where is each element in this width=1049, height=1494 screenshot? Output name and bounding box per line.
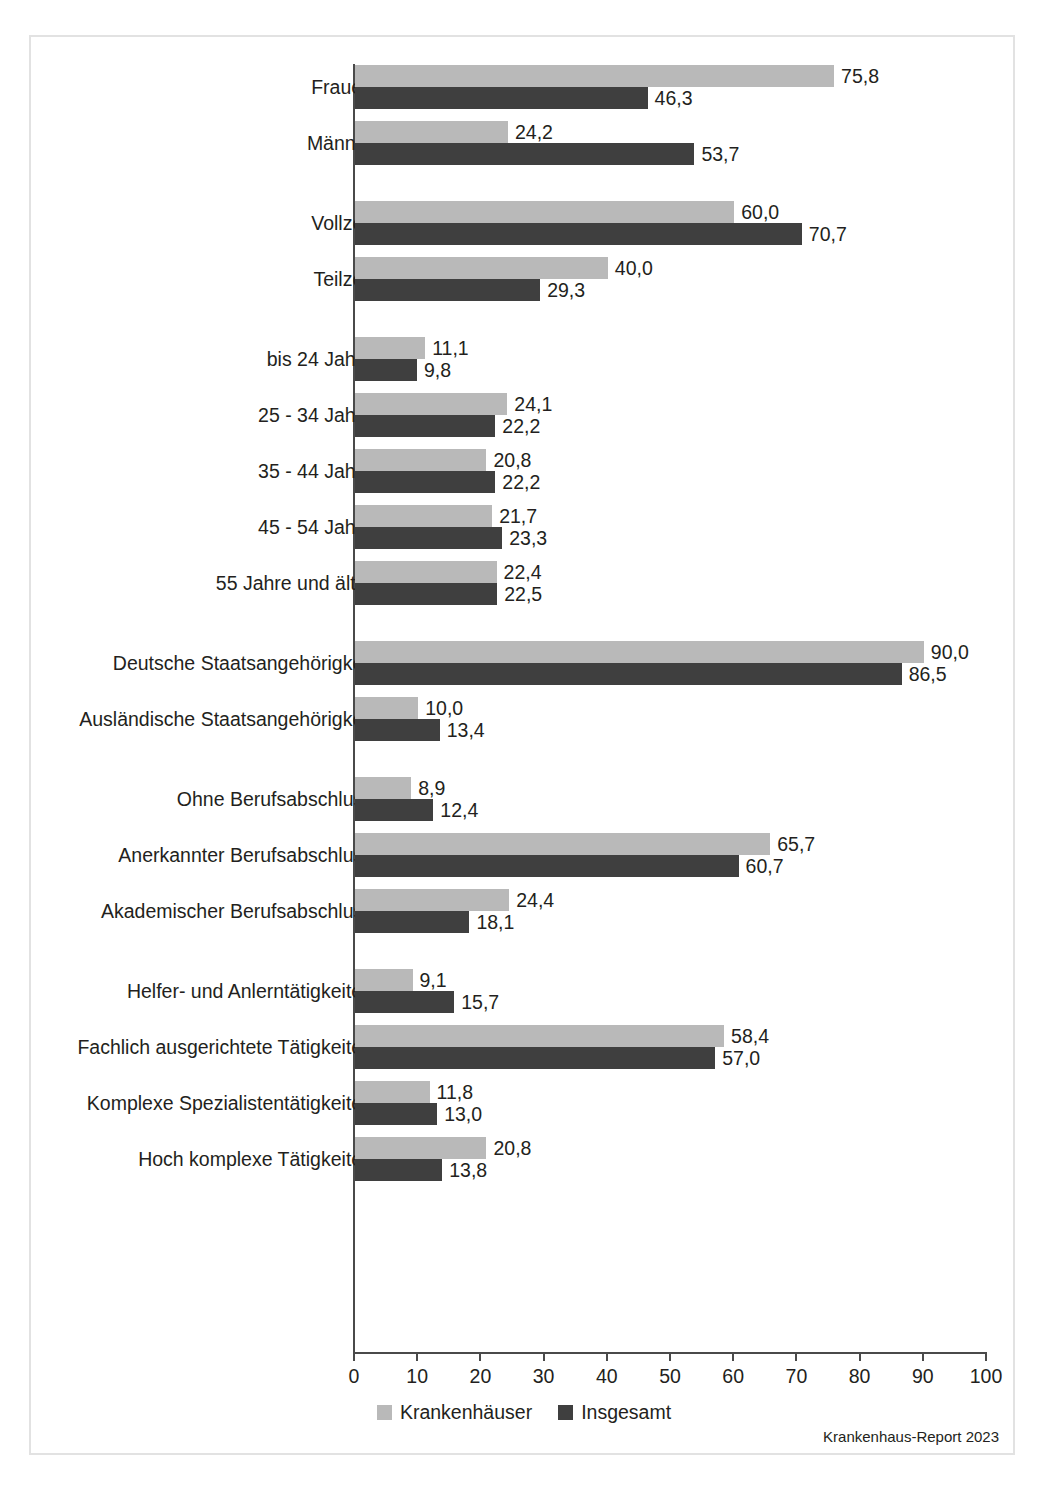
bar-dark[interactable] (355, 471, 495, 493)
category-label: Deutsche Staatsangehörigkeit (113, 641, 373, 685)
x-axis-tick-label: 40 (596, 1365, 618, 1388)
legend-swatch-icon (377, 1405, 392, 1420)
bar-value-label: 29,3 (540, 279, 585, 301)
bar-dark[interactable] (355, 855, 739, 877)
bar-light[interactable] (355, 121, 508, 143)
bar-value-label: 40,0 (608, 257, 653, 279)
bar-value-label: 22,2 (495, 471, 540, 493)
bar-light[interactable] (355, 505, 492, 527)
bar-light[interactable] (355, 393, 507, 415)
bar-light[interactable] (355, 1137, 486, 1159)
bar-value-label: 60,0 (734, 201, 779, 223)
bar-pair: 9,115,7 (355, 969, 1017, 1013)
bar-light[interactable] (355, 257, 608, 279)
bar-value-label: 8,9 (411, 777, 445, 799)
bar-value-label: 9,8 (417, 359, 451, 381)
bar-light[interactable] (355, 833, 770, 855)
bar-value-label: 86,5 (902, 663, 947, 685)
bar-row[interactable]: Hoch komplexe Tätigkeiten20,813,8 (31, 1137, 1017, 1181)
bar-dark[interactable] (355, 1159, 442, 1181)
legend-item[interactable]: Insgesamt (558, 1400, 671, 1424)
bar-pair: 24,122,2 (355, 393, 1017, 437)
x-axis-tick-label: 80 (849, 1365, 871, 1388)
bar-light[interactable] (355, 1081, 430, 1103)
bar-row[interactable]: 25 - 34 Jahre24,122,2 (31, 393, 1017, 437)
bar-light[interactable] (355, 777, 411, 799)
figure-frame: Frauen75,846,3Männer24,253,7Vollzeit60,0… (29, 35, 1015, 1455)
bar-dark[interactable] (355, 87, 648, 109)
x-axis-tick (416, 1352, 418, 1361)
bar-pair: 58,457,0 (355, 1025, 1017, 1069)
bar-row[interactable]: Anerkannter Berufsabschluss65,760,7 (31, 833, 1017, 877)
bar-value-label: 90,0 (924, 641, 969, 663)
bar-light[interactable] (355, 561, 497, 583)
legend-swatch-icon (558, 1405, 573, 1420)
bar-row[interactable]: Teilzeit40,029,3 (31, 257, 1017, 301)
bar-row[interactable]: Deutsche Staatsangehörigkeit90,086,5 (31, 641, 1017, 685)
bar-light[interactable] (355, 65, 834, 87)
bar-value-label: 70,7 (802, 223, 847, 245)
bar-light[interactable] (355, 697, 418, 719)
x-axis-tick (353, 1352, 355, 1361)
bar-value-label: 24,4 (509, 889, 554, 911)
chart-legend: KrankenhäuserInsgesamt (31, 1399, 1017, 1424)
bar-dark[interactable] (355, 991, 454, 1013)
bar-row[interactable]: 35 - 44 Jahre20,822,2 (31, 449, 1017, 493)
bar-dark[interactable] (355, 527, 502, 549)
category-label: Akademischer Berufsabschluss (101, 889, 373, 933)
bar-value-label: 13,4 (440, 719, 485, 741)
bar-light[interactable] (355, 969, 413, 991)
x-axis-tick-label: 20 (470, 1365, 492, 1388)
bar-row[interactable]: Frauen75,846,3 (31, 65, 1017, 109)
bar-row[interactable]: Helfer- und Anlerntätigkeiten9,115,7 (31, 969, 1017, 1013)
bar-pair: 20,822,2 (355, 449, 1017, 493)
bar-row[interactable]: Akademischer Berufsabschluss24,418,1 (31, 889, 1017, 933)
bar-row[interactable]: Männer24,253,7 (31, 121, 1017, 165)
bar-value-label: 13,0 (437, 1103, 482, 1125)
bar-dark[interactable] (355, 1103, 437, 1125)
chart-plot-area: Frauen75,846,3Männer24,253,7Vollzeit60,0… (31, 37, 1017, 1457)
bar-dark[interactable] (355, 143, 694, 165)
bar-light[interactable] (355, 449, 486, 471)
bar-row[interactable]: Fachlich ausgerichtete Tätigkeiten58,457… (31, 1025, 1017, 1069)
bar-dark[interactable] (355, 663, 902, 685)
category-label: Komplexe Spezialistentätigkeiten (87, 1081, 373, 1125)
bar-light[interactable] (355, 889, 509, 911)
category-label: Ohne Berufsabschluss (177, 777, 373, 821)
bar-dark[interactable] (355, 279, 540, 301)
category-label: Anerkannter Berufsabschluss (118, 833, 373, 877)
bar-dark[interactable] (355, 1047, 715, 1069)
source-note: Krankenhaus-Report 2023 (823, 1428, 999, 1445)
bar-value-label: 15,7 (454, 991, 499, 1013)
bar-dark[interactable] (355, 719, 440, 741)
bar-row[interactable]: 45 - 54 Jahre21,723,3 (31, 505, 1017, 549)
bar-pair: 11,19,8 (355, 337, 1017, 381)
bar-value-label: 10,0 (418, 697, 463, 719)
bar-value-label: 9,1 (413, 969, 447, 991)
bar-row[interactable]: Ausländische Staatsangehörigkeit10,013,4 (31, 697, 1017, 741)
bar-pair: 8,912,4 (355, 777, 1017, 821)
bar-row[interactable]: Komplexe Spezialistentätigkeiten11,813,0 (31, 1081, 1017, 1125)
bar-row[interactable]: 55 Jahre und älter22,422,5 (31, 561, 1017, 605)
bar-row[interactable]: Ohne Berufsabschluss8,912,4 (31, 777, 1017, 821)
bar-dark[interactable] (355, 583, 497, 605)
category-label: Hoch komplexe Tätigkeiten (138, 1137, 373, 1181)
category-label: Ausländische Staatsangehörigkeit (79, 697, 373, 741)
legend-label: Insgesamt (581, 1401, 671, 1424)
legend-item[interactable]: Krankenhäuser (377, 1400, 532, 1424)
bar-pair: 20,813,8 (355, 1137, 1017, 1181)
bar-dark[interactable] (355, 223, 802, 245)
bar-light[interactable] (355, 641, 924, 663)
x-axis-tick-label: 70 (786, 1365, 808, 1388)
bar-dark[interactable] (355, 799, 433, 821)
bar-light[interactable] (355, 337, 425, 359)
bar-light[interactable] (355, 1025, 724, 1047)
bar-value-label: 20,8 (486, 449, 531, 471)
bar-row[interactable]: bis 24 Jahre11,19,8 (31, 337, 1017, 381)
bar-light[interactable] (355, 201, 734, 223)
bar-dark[interactable] (355, 359, 417, 381)
bar-value-label: 20,8 (486, 1137, 531, 1159)
bar-dark[interactable] (355, 911, 469, 933)
bar-dark[interactable] (355, 415, 495, 437)
bar-row[interactable]: Vollzeit60,070,7 (31, 201, 1017, 245)
